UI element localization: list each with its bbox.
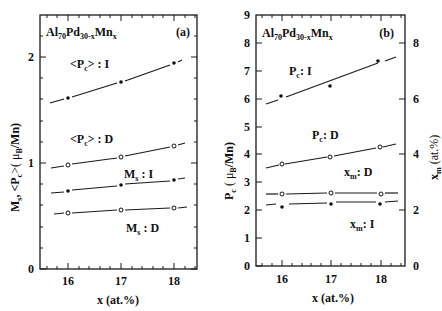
panel-a-xtick-17: 17 [115,274,127,288]
label-b-xm-d: xm: D [344,165,373,181]
panel-b-xtick-17: 17 [325,272,337,286]
panel-b-ytick-right-6: 6 [413,92,419,106]
label-b-pc-i: Pc: I [289,64,312,80]
label-a-ms-d: Ms : D [126,221,159,237]
panel-b-ylabel: Pc ( μB/Mn) [222,142,238,200]
panel-a-ytick-2: 2 [28,50,34,64]
panel-b-ytick-7: 7 [244,64,250,78]
panel-b-ytick-4: 4 [244,147,250,161]
panel-b-title: Al70Pd30-xMnx [262,26,333,42]
series-b-pc-d [266,144,396,168]
label-b-xm-i: xm: I [350,217,375,233]
panel-b-ytick-right-4: 4 [413,147,419,161]
panel-a-xtick-16: 16 [62,274,74,288]
panel-b-ytick-right-0: 0 [413,259,419,273]
panel-b-ytick-3: 3 [244,175,250,189]
panel-b-xlabel: x (at.%) [312,291,354,305]
series-b-pc-i [266,57,396,104]
panel-b-ytick-9: 9 [244,8,250,22]
panel-b-ytick-2: 2 [244,203,250,217]
panel-b-ytick-right-2: 2 [413,203,419,217]
panel-a-title: Al70Pd30-xMnx [46,25,117,41]
panel-a-ytick-1: 1 [28,156,34,170]
panel-a-ylabel: Ms, <Pc>( μB/Mn) [8,123,24,212]
panel-b-ytick-right-8: 8 [413,36,419,50]
panel-b-ytick-6: 6 [244,92,250,106]
panel-a-xtick-18: 18 [168,274,180,288]
label-a-ms-i: Ms : I [124,167,153,183]
panel-b-ytick-1: 1 [244,231,250,245]
series-a-ms-d [54,206,187,215]
series-b-xm-d [266,191,398,196]
label-a-pc-d: <Pc> : D [70,132,114,148]
panel-a: 0 1 2 16 17 18 x (at.%) Ms, <Pc>( μB/Mn)… [8,15,197,307]
panel-b: 0 1 2 3 4 5 6 7 8 9 0 2 4 6 8 16 17 18 x… [222,8,442,305]
panel-b-yticks-right [399,43,405,210]
series-a-ms-i [51,178,185,193]
figure: 0 1 2 16 17 18 x (at.%) Ms, <Pc>( μB/Mn)… [0,0,442,311]
panel-b-xtick-18: 18 [375,272,387,286]
panel-b-ytick-5: 5 [244,120,250,134]
panel-b-ylabel-right: xm (at.%) [427,135,442,180]
panel-b-label: (b) [379,26,394,40]
series-a-pc-d [51,143,185,168]
panel-b-xtick-16: 16 [276,272,288,286]
label-a-pc-i: <Pc> : I [70,57,110,73]
panel-b-yticks-left [256,43,262,266]
label-b-pc-d: Pc: D [312,128,339,144]
panel-a-label: (a) [176,25,190,39]
panel-a-frame [40,15,197,269]
panel-a-ytick-0: 0 [28,262,34,276]
panel-a-yticks [40,36,197,269]
panel-b-ytick-0: 0 [244,259,250,273]
panel-b-ytick-8: 8 [244,36,250,50]
panel-a-xlabel: x (at.%) [97,293,139,307]
series-b-xm-i [266,201,398,209]
